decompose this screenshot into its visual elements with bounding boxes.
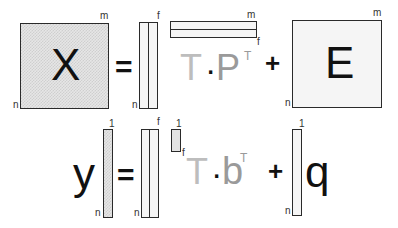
dim-label-b-cols: 1 [176,119,182,129]
plus-sign-row2: + [268,158,283,184]
equals-sign-row2: = [117,160,135,190]
matrix-p-loadings [170,21,257,38]
dim-label-t-cols-row2: f [157,117,160,127]
vector-y [103,129,113,218]
dim-label-e-rows: n [285,98,291,108]
symbol-p: P [216,50,240,86]
dim-label-b-rows: f [182,148,185,158]
symbol-t-row1: T [180,50,202,86]
dot-operator-row1: · [205,52,216,86]
transpose-superscript-b: T [240,152,247,164]
plus-sign-row1: + [265,50,280,76]
dim-label-q-rows: n [285,206,291,216]
dim-label-t-rows-row2: n [134,208,140,218]
dim-label-p-cols: m [247,10,255,20]
symbol-x: X [51,43,80,87]
matrix-t-scores-row2 [141,129,159,218]
dim-label-p-rows: f [257,37,260,47]
dim-label-y-cols: 1 [109,119,115,129]
vector-b-coefficients [171,129,181,152]
transpose-superscript-p: T [244,50,251,62]
matrix-t-scores-row1 [139,22,158,109]
dim-label-e-cols: m [373,8,381,18]
dim-label-q-cols: 1 [299,119,305,129]
row-divider [171,29,256,30]
column-divider [149,130,150,217]
symbol-t-row2: T [186,154,208,190]
dot-operator-row2: · [211,156,222,190]
symbol-y: y [73,152,95,196]
dim-label-y-rows: n [95,208,101,218]
dim-label-t-rows-row1: n [132,100,138,110]
dim-label-x-rows: n [13,100,19,110]
vector-q-residual [292,129,302,216]
column-divider [148,23,149,108]
equals-sign-row1: = [115,52,133,82]
dim-label-x-cols: m [100,11,108,21]
dim-label-t-cols-row1: f [157,11,160,21]
symbol-e: E [325,41,354,85]
symbol-q: q [305,150,329,194]
